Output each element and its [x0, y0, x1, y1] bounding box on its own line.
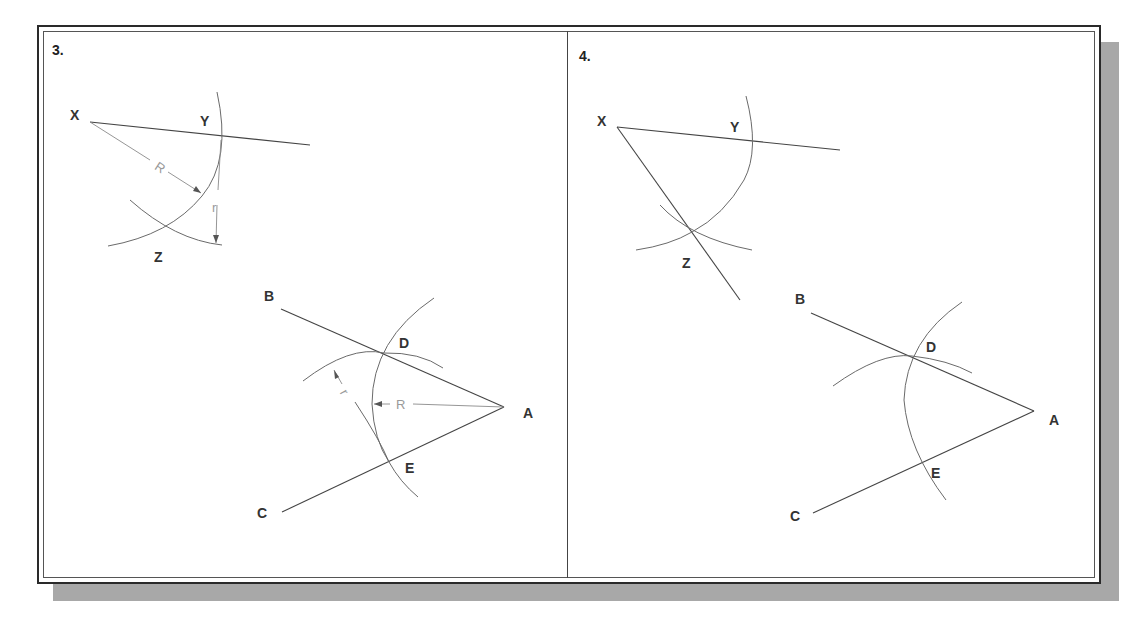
- panel-3-number: 3.: [52, 42, 64, 58]
- label-e: E: [931, 465, 940, 481]
- label-y: Y: [730, 119, 740, 135]
- arc-radius-r-lower: [355, 402, 418, 497]
- label-x: X: [70, 107, 80, 123]
- label-b: B: [795, 291, 805, 307]
- radius-arrowhead: [374, 401, 382, 407]
- label-x: X: [597, 113, 607, 129]
- label-c: C: [790, 508, 800, 524]
- panel-3-angle-xyz: R r X Y Z: [70, 92, 310, 265]
- panel-4-angle-xyz: X Y Z: [597, 96, 840, 300]
- chord-arrowhead: [213, 235, 219, 243]
- panel-4-angle-bac: B D A E C: [790, 291, 1059, 524]
- radius-arrowhead: [193, 186, 201, 193]
- line-ca: [282, 407, 504, 512]
- chord-label-r: r: [337, 387, 352, 399]
- line-xz: [617, 127, 740, 300]
- label-d: D: [926, 339, 936, 355]
- label-d: D: [399, 335, 409, 351]
- line-ca: [813, 411, 1034, 513]
- label-a: A: [523, 405, 533, 421]
- panel-4: 4. X Y Z B D A E C: [579, 48, 1059, 524]
- line-xy: [617, 127, 840, 150]
- label-y: Y: [200, 113, 210, 129]
- label-z: Z: [154, 249, 163, 265]
- panel-3: 3. R r X Y Z: [52, 42, 533, 521]
- chord-label-r: r: [212, 200, 217, 215]
- arc-radius-r: [130, 200, 222, 245]
- radius-dimension-line: [413, 404, 504, 407]
- arc-radius-r-upper: [303, 352, 443, 381]
- label-z: Z: [682, 255, 691, 271]
- label-a: A: [1049, 412, 1059, 428]
- line-ba: [281, 309, 504, 407]
- panel-4-number: 4.: [579, 48, 591, 64]
- construction-diagram: 3. R r X Y Z: [0, 0, 1147, 627]
- figure-canvas: 3. R r X Y Z: [0, 0, 1147, 627]
- panel-3-angle-bac: R r B D A E C: [257, 288, 533, 521]
- label-b: B: [264, 288, 274, 304]
- label-e: E: [405, 460, 414, 476]
- arc-radius-r: [660, 205, 752, 250]
- radius-label-R: R: [396, 397, 405, 412]
- line-ba: [811, 313, 1034, 411]
- label-c: C: [257, 505, 267, 521]
- arc-radius-r: [833, 356, 972, 386]
- radius-label-R: R: [152, 159, 168, 177]
- arc-radius-R: [372, 298, 434, 462]
